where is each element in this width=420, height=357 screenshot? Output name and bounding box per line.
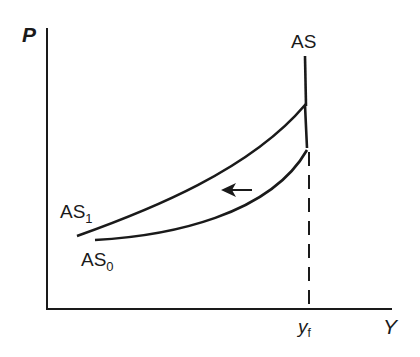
left-arrow-icon (221, 183, 252, 197)
as-label: AS (291, 31, 316, 52)
y-axis-label: P (22, 23, 37, 46)
as0-curve (95, 150, 307, 240)
as1-curve (77, 105, 307, 236)
yf-tick-label: yf (296, 316, 312, 340)
x-axis-label: Y (383, 315, 399, 338)
as0-label: AS0 (81, 249, 114, 274)
as1-label: AS1 (60, 201, 93, 226)
as-curve-diagram: P Y AS AS1 AS0 yf (0, 0, 420, 357)
as-vertical-line (305, 56, 306, 106)
